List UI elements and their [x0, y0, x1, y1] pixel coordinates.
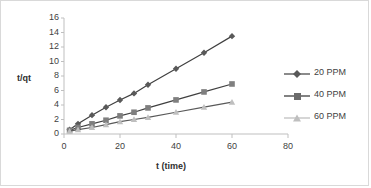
legend-label: 20 PPM	[314, 67, 346, 77]
y-tick-label: 12	[39, 41, 59, 51]
y-tick-label: 6	[39, 85, 59, 95]
legend: 20 PPM 40 PPM 60 PPM	[284, 61, 362, 127]
chart-container: 0246810121416 020406080 t/qt t (time) 20…	[0, 0, 369, 186]
y-tick-label: 10	[39, 56, 59, 66]
y-axis-title: t/qt	[17, 73, 31, 83]
legend-key-square-icon	[284, 88, 310, 100]
legend-item[interactable]: 40 PPM	[284, 83, 362, 105]
legend-key-triangle-icon	[284, 110, 310, 122]
legend-label: 60 PPM	[314, 111, 346, 121]
data-point	[229, 81, 235, 87]
x-tick-label: 80	[274, 141, 302, 151]
y-tick-label: 0	[39, 128, 59, 138]
y-tick-label: 14	[39, 27, 59, 37]
data-point	[173, 66, 179, 72]
data-point	[131, 109, 137, 115]
legend-item[interactable]: 20 PPM	[284, 61, 362, 83]
y-tick-label: 16	[39, 12, 59, 22]
x-tick-label: 20	[106, 141, 134, 151]
x-axis-ticks	[64, 134, 288, 138]
data-point	[103, 104, 109, 110]
data-point	[145, 82, 151, 88]
data-point	[89, 112, 95, 118]
data-point	[229, 99, 235, 105]
y-tick-label: 2	[39, 114, 59, 124]
data-point	[229, 33, 235, 39]
legend-label: 40 PPM	[314, 89, 346, 99]
legend-item[interactable]: 60 PPM	[284, 105, 362, 127]
x-tick-label: 60	[218, 141, 246, 151]
data-point	[201, 50, 207, 56]
data-point	[117, 113, 123, 119]
data-series-layer	[66, 33, 235, 134]
y-tick-label: 8	[39, 70, 59, 80]
data-point	[145, 105, 151, 111]
data-point	[117, 97, 123, 103]
x-tick-label: 40	[162, 141, 190, 151]
y-tick-label: 4	[39, 99, 59, 109]
data-point	[201, 89, 207, 95]
legend-key-diamond-icon	[284, 66, 310, 78]
data-point	[131, 90, 137, 96]
x-axis-title: t (time)	[156, 161, 186, 171]
series-20-ppm	[66, 33, 235, 133]
x-tick-label: 0	[50, 141, 78, 151]
data-point	[173, 97, 179, 103]
